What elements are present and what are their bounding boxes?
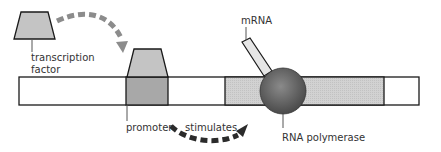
- transcription-factor-bound: [127, 49, 168, 77]
- transcription-factor-label-line1: transcription: [31, 52, 95, 63]
- rna-polymerase: [260, 68, 306, 114]
- stimulates-label: stimulates: [185, 122, 237, 133]
- mrna-strand: [242, 38, 272, 76]
- transcription-factor-free: [14, 12, 55, 39]
- rna-polymerase-label: RNA polymerase: [282, 132, 365, 143]
- promoter-region: [126, 77, 168, 105]
- dna-strand: [19, 77, 419, 105]
- promoter-label: promoter: [126, 122, 173, 133]
- mrna-label: mRNA: [241, 15, 272, 26]
- binding-arrow: [57, 14, 128, 53]
- transcription-factor-label-line2: factor: [31, 64, 61, 75]
- arrowhead-icon: [116, 41, 128, 53]
- gene-regulation-diagram: transcription factor promoter stimulates…: [0, 0, 441, 152]
